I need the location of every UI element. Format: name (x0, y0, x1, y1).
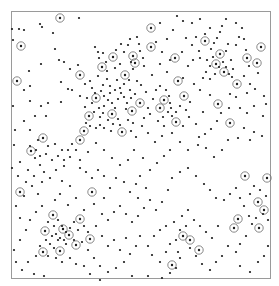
data-point (25, 229, 27, 231)
data-point (35, 211, 37, 213)
circled-point-dot (88, 115, 90, 117)
data-point (249, 139, 251, 141)
circled-point-dot (112, 56, 114, 58)
data-point (84, 83, 86, 85)
data-point (205, 147, 207, 149)
circled-point-dot (79, 139, 81, 141)
circled-point-dot (44, 230, 46, 232)
data-point (263, 255, 265, 257)
data-point (59, 237, 61, 239)
data-point (79, 95, 81, 97)
data-point (253, 185, 255, 187)
data-point (119, 63, 121, 65)
data-point (175, 111, 177, 113)
data-point (147, 107, 149, 109)
data-point (191, 22, 193, 24)
data-point (199, 57, 201, 59)
data-point (151, 254, 153, 256)
data-point (110, 130, 112, 132)
data-point (193, 83, 195, 85)
data-point (71, 89, 73, 91)
data-point (41, 26, 43, 28)
data-point (243, 127, 245, 129)
data-point (91, 177, 93, 179)
data-point (262, 213, 264, 215)
data-point (195, 36, 197, 38)
circled-point-dot (89, 238, 91, 240)
data-point (129, 89, 131, 91)
data-point (102, 84, 104, 86)
data-point (267, 219, 269, 221)
data-point (127, 44, 129, 46)
data-point (232, 68, 234, 70)
circled-point-dot (183, 95, 185, 97)
data-point (181, 215, 183, 217)
data-point (195, 255, 197, 257)
data-point (199, 225, 201, 227)
data-point (102, 112, 104, 114)
data-point (216, 37, 218, 39)
data-point (131, 221, 133, 223)
data-point (193, 219, 195, 221)
data-point (139, 175, 141, 177)
data-point (115, 267, 117, 269)
data-point (39, 23, 41, 25)
circled-point-dot (111, 113, 113, 115)
data-point (235, 96, 237, 98)
data-point (29, 145, 31, 147)
data-point (55, 169, 57, 171)
data-point (67, 88, 69, 90)
circled-point-dot (131, 110, 133, 112)
data-point (107, 99, 109, 101)
circled-point-dot (177, 80, 179, 82)
data-point (83, 225, 85, 227)
data-point (129, 38, 131, 40)
data-point (221, 25, 223, 27)
data-point (79, 167, 81, 169)
data-point (188, 116, 190, 118)
data-point (239, 265, 241, 267)
data-point (257, 261, 259, 263)
circled-point-dot (124, 74, 126, 76)
data-point (227, 43, 229, 45)
data-point (130, 130, 132, 132)
data-point (54, 143, 56, 145)
circled-point-dot (52, 214, 54, 216)
data-point (142, 57, 144, 59)
circled-point-dot (217, 103, 219, 105)
circled-point-dot (150, 27, 152, 29)
data-point (67, 204, 69, 206)
data-point (39, 155, 41, 157)
circled-point-dot (171, 264, 173, 266)
data-point (227, 139, 229, 141)
data-point (79, 159, 81, 161)
data-point (89, 273, 91, 275)
data-point (93, 257, 95, 259)
data-point (100, 90, 102, 92)
data-point (43, 171, 45, 173)
data-point (57, 239, 59, 241)
circled-point-dot (95, 97, 97, 99)
data-point (45, 239, 47, 241)
circled-point-dot (174, 57, 176, 59)
circled-point-dot (62, 228, 64, 230)
data-point (204, 133, 206, 135)
data-point (253, 131, 255, 133)
data-point (179, 171, 181, 173)
data-point (47, 145, 49, 147)
circled-point-dot (42, 137, 44, 139)
data-point (217, 225, 219, 227)
data-point (211, 237, 213, 239)
data-point (212, 56, 214, 58)
data-point (137, 215, 139, 217)
data-point (255, 217, 257, 219)
data-point (54, 199, 56, 201)
data-point (87, 249, 89, 251)
data-point (214, 73, 216, 75)
data-point (257, 72, 259, 74)
data-point (159, 22, 161, 24)
data-point (111, 157, 113, 159)
circled-point-dot (189, 239, 191, 241)
data-point (235, 251, 237, 253)
circled-point-dot (258, 227, 260, 229)
